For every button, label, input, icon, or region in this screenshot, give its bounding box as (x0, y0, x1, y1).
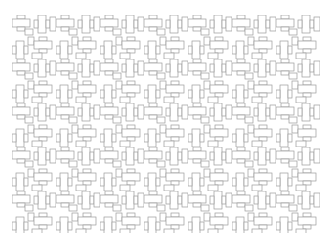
pattern-canvas (0, 0, 332, 247)
basketweave-pattern (0, 0, 332, 247)
